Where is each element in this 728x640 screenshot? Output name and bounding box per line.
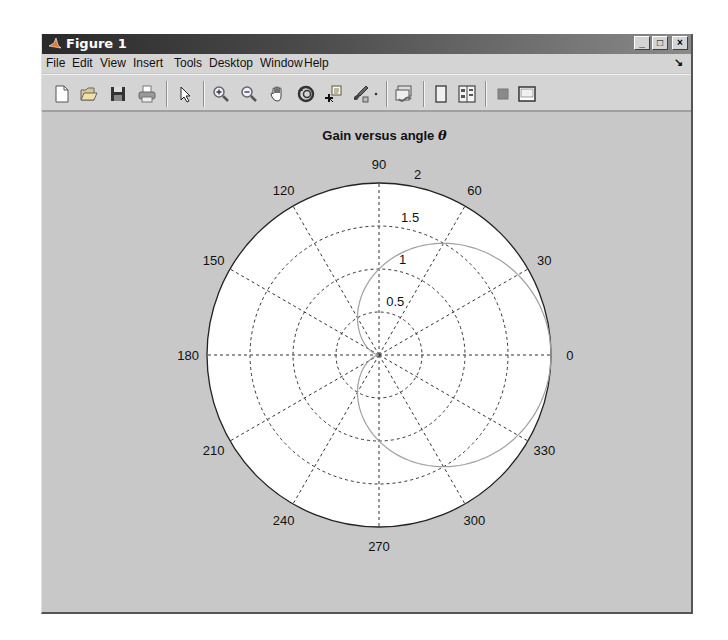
angle-label-60: 60: [467, 183, 481, 198]
angle-label-210: 210: [203, 443, 225, 458]
radius-label-2: 2: [414, 167, 421, 182]
angle-label-0: 0: [566, 348, 573, 363]
radius-label-1.5: 1.5: [401, 210, 419, 225]
radius-label-1: 1: [399, 252, 406, 267]
angle-label-150: 150: [203, 253, 225, 268]
radius-label-0.5: 0.5: [386, 294, 404, 309]
angle-label-30: 30: [537, 253, 551, 268]
angle-label-240: 240: [273, 513, 295, 528]
angle-label-120: 120: [273, 183, 295, 198]
angle-label-270: 270: [368, 539, 390, 554]
angle-label-90: 90: [372, 157, 386, 172]
polar-plot[interactable]: 03060901201501802102402703003300.511.52: [0, 0, 728, 640]
angle-label-330: 330: [533, 443, 555, 458]
angle-label-180: 180: [177, 348, 199, 363]
angle-label-300: 300: [464, 513, 486, 528]
